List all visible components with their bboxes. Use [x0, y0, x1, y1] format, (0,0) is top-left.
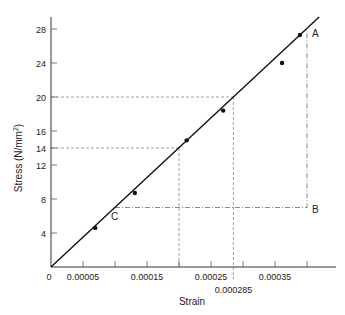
y-tick-label: 14 — [36, 144, 46, 154]
data-point — [280, 61, 284, 65]
y-tick-label: 4 — [41, 229, 46, 239]
data-point — [93, 226, 97, 230]
stress-strain-chart: 00.000050.000150.000250.000350.000285481… — [0, 0, 345, 315]
point-annotations: ABC — [111, 28, 319, 221]
data-point — [184, 138, 188, 142]
annotation-b: B — [312, 204, 319, 215]
y-axis-label: Stress (N/mm2) — [12, 124, 24, 192]
data-point — [221, 108, 225, 112]
y-tick-label: 16 — [36, 127, 46, 137]
y-tick-label: 24 — [36, 59, 46, 69]
best-fit-line — [51, 17, 319, 267]
annotation-c: C — [111, 211, 118, 222]
annotation-a: A — [312, 28, 319, 39]
x-axis-label: Strain — [179, 296, 205, 307]
x-tick-label: 0.00035 — [259, 272, 292, 282]
data-series — [51, 17, 319, 267]
y-tick-label: 20 — [36, 93, 46, 103]
x-tick-label: 0.00015 — [131, 272, 164, 282]
data-point — [298, 33, 302, 37]
x-tick-label: 0.000285 — [215, 285, 253, 295]
x-tick-label: 0 — [46, 272, 51, 282]
y-tick-label: 28 — [36, 25, 46, 35]
x-tick-label: 0.00025 — [195, 272, 228, 282]
y-tick-label: 12 — [36, 161, 46, 171]
y-tick-label: 8 — [41, 195, 46, 205]
tick-labels: 00.000050.000150.000250.000350.000285481… — [36, 25, 291, 296]
x-tick-label: 0.00005 — [67, 272, 100, 282]
data-point — [133, 191, 137, 195]
guide-lines — [51, 33, 307, 279]
